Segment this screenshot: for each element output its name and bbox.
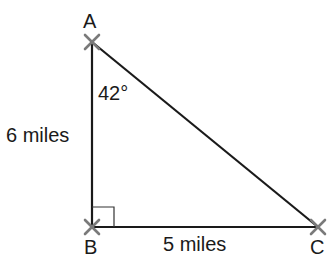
side-ab-label: 6 miles bbox=[6, 125, 69, 145]
vertex-label-c: C bbox=[310, 237, 324, 257]
vertex-label-a: A bbox=[83, 11, 96, 31]
side-bc-label: 5 miles bbox=[163, 234, 226, 254]
triangle-sides bbox=[92, 42, 318, 227]
angle-label: 42° bbox=[98, 83, 128, 103]
side-ac bbox=[92, 42, 318, 227]
triangle-diagram: A B C 42° 6 miles 5 miles bbox=[0, 0, 336, 265]
vertex-label-b: B bbox=[84, 237, 97, 257]
